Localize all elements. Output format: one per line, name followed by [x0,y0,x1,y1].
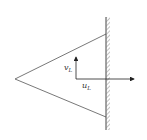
v-label: vL [64,63,73,73]
u-label: uL [82,81,91,91]
wedge-triangle [15,34,106,117]
wall-hatching [107,17,111,130]
diagram-canvas: vL uL [0,0,147,140]
